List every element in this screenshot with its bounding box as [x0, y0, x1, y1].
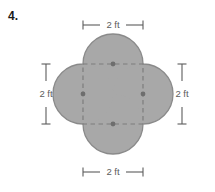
worksheet-figure-page: 4. 2 ft 2 ft [0, 0, 215, 192]
dimension-bottom-label: 2 ft [106, 166, 120, 177]
geometry-figure: 2 ft 2 ft 2 ft 2 ft [0, 0, 215, 192]
dimension-left: 2 ft [39, 64, 53, 124]
center-dot-right-edge-midpoint [141, 92, 146, 97]
dimension-left-label: 2 ft [39, 88, 53, 99]
dimension-bottom: 2 ft [83, 166, 143, 177]
center-dot-left-edge-midpoint [81, 92, 86, 97]
center-dot-bottom-edge-midpoint [111, 122, 116, 127]
center-dot-top-edge-midpoint [111, 62, 116, 67]
dimension-top: 2 ft [83, 19, 143, 30]
quatrefoil-shape [53, 34, 173, 154]
dimension-right: 2 ft [175, 64, 189, 124]
dimension-top-label: 2 ft [106, 19, 120, 30]
dimension-right-label: 2 ft [175, 88, 189, 99]
